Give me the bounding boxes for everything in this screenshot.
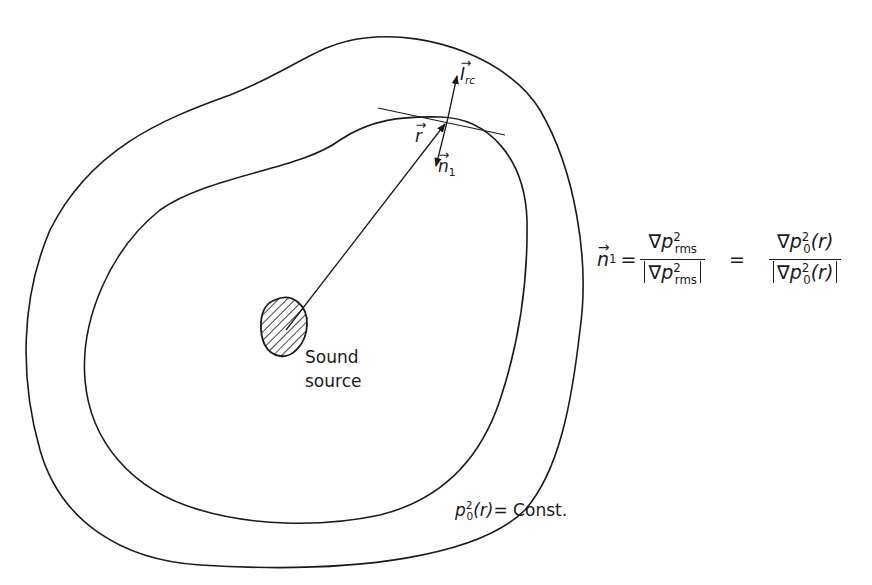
frac1-den-symbol: p bbox=[661, 261, 673, 283]
normal-subscript: 1 bbox=[449, 166, 456, 178]
intensity-symbol: I bbox=[460, 66, 465, 83]
outer-contour bbox=[26, 37, 583, 568]
normal-symbol: n bbox=[438, 158, 449, 175]
eq-equals-1: = bbox=[621, 250, 637, 269]
frac2-num-sub: 0 bbox=[803, 242, 811, 256]
nabla-icon: ∇ bbox=[648, 230, 661, 252]
frac2-den-symbol: p bbox=[790, 261, 802, 283]
normal-vector-label: n1 bbox=[438, 158, 455, 178]
frac2-num-symbol: p bbox=[790, 230, 802, 252]
fraction-p0-numerator: ∇p20(r) bbox=[773, 232, 837, 259]
fraction-p0-denominator: ∇p20(r) bbox=[769, 259, 841, 287]
eq-lhs-sub: 1 bbox=[609, 254, 617, 266]
fraction-rms-numerator: ∇p2rms bbox=[644, 232, 701, 259]
position-vector-line bbox=[286, 124, 445, 330]
sound-field-diagram bbox=[0, 0, 872, 585]
frac1-num-symbol: p bbox=[661, 230, 673, 252]
contour-symbol: p bbox=[455, 500, 466, 520]
nabla-icon: ∇ bbox=[648, 261, 661, 283]
sound-source-line1: Sound bbox=[305, 345, 361, 369]
intensity-subscript: rc bbox=[465, 74, 475, 86]
frac2-den-sub: 0 bbox=[803, 273, 811, 287]
eq-equals-2: = bbox=[729, 250, 745, 269]
nabla-icon: ∇ bbox=[777, 230, 790, 252]
abs-bars: ∇p20(r) bbox=[773, 261, 837, 283]
nabla-icon: ∇ bbox=[777, 261, 790, 283]
fraction-p0: ∇p20(r) ∇p20(r) bbox=[769, 232, 841, 287]
intensity-vector-line bbox=[447, 76, 457, 122]
frac2-num-arg: (r) bbox=[811, 230, 834, 252]
sound-source-blob bbox=[261, 298, 307, 357]
abs-bars: ∇p2rms bbox=[644, 261, 701, 283]
contour-rhs: = Const. bbox=[493, 500, 567, 520]
frac1-den-sub: rms bbox=[675, 273, 697, 287]
frac2-den-arg: (r) bbox=[811, 261, 834, 283]
frac1-num-sub: rms bbox=[675, 242, 697, 256]
sound-source-label: Sound source bbox=[305, 345, 361, 393]
contour-label: p20(r)= Const. bbox=[455, 500, 567, 522]
sound-source-line2: source bbox=[305, 369, 361, 393]
position-vector-label: r bbox=[415, 128, 422, 145]
intensity-vector-label: Irc bbox=[460, 66, 475, 86]
position-symbol: r bbox=[415, 128, 422, 145]
fraction-rms: ∇p2rms ∇p2rms bbox=[640, 232, 705, 287]
tangent-line bbox=[378, 108, 505, 135]
normal-vector-equation: n1 = ∇p2rms ∇p2rms = ∇p20(r) ∇p20(r) bbox=[597, 232, 841, 287]
fraction-rms-denominator: ∇p2rms bbox=[640, 259, 705, 287]
eq-lhs-symbol: n bbox=[597, 250, 609, 269]
contour-arg: (r) bbox=[473, 500, 493, 520]
